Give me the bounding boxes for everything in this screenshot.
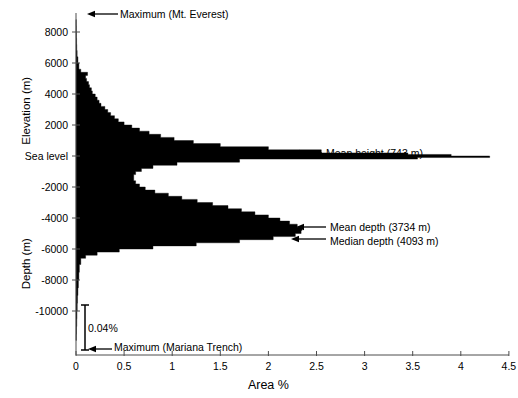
x-tick-label: 4.5 [502, 361, 517, 372]
maximum-everest-label: Maximum (Mt. Everest) [120, 9, 229, 20]
x-axis-title: Area % [248, 379, 289, 392]
chart-canvas [0, 0, 518, 398]
y-tick-label: 4000 [45, 89, 68, 100]
x-tick-label: 1.5 [213, 361, 228, 372]
y-tick-label: 8000 [45, 27, 68, 38]
histogram-area-group [76, 20, 490, 341]
maximum-mariana-trench-label: Maximum (Mariana Trench) [114, 342, 242, 353]
area-fill-path [76, 20, 490, 341]
y-tick-label: Sea level [25, 151, 68, 162]
x-tick-label: 3.5 [405, 361, 420, 372]
mean-height-label: Mean height (743 m) [326, 148, 423, 159]
maximum-everest-arrow-head [87, 11, 95, 17]
y-tick-label: -10000 [35, 306, 68, 317]
bracket-value-label: 0.04% [88, 323, 118, 334]
y-tick-label: -8000 [41, 275, 68, 286]
y-tick-label: -2000 [41, 182, 68, 193]
axis-lines-group [76, 13, 509, 355]
x-tick-label: 4 [458, 361, 464, 372]
x-tick-label: 2 [265, 361, 271, 372]
median-depth-label: Median depth (4093 m) [330, 236, 439, 247]
y-tick-label: -4000 [41, 213, 68, 224]
x-tick-label: 0.5 [117, 361, 132, 372]
x-tick-label: 1 [169, 361, 175, 372]
hypsometric-curve-chart: 8000600040002000Sea level-2000-4000-6000… [0, 0, 518, 398]
y-axis-title-depth: Depth (m) [21, 229, 33, 299]
y-axis-title-elevation: Elevation (m) [21, 71, 33, 151]
y-tick-label: 2000 [45, 120, 68, 131]
y-tick-label: -6000 [41, 244, 68, 255]
x-tick-label: 0 [73, 361, 79, 372]
mean-depth-label: Mean depth (3734 m) [330, 222, 430, 233]
x-tick-label: 2.5 [309, 361, 324, 372]
x-tick-label: 3 [362, 361, 368, 372]
maximum-mariana-trench-arrow-head [88, 346, 96, 352]
y-tick-label: 6000 [45, 58, 68, 69]
